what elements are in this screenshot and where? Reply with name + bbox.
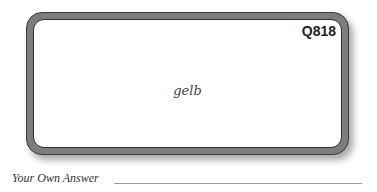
- card-term: gelb: [34, 83, 341, 98]
- flashcard-face: Q818 gelb: [33, 19, 342, 148]
- flashcard: Q818 gelb: [26, 12, 349, 155]
- answer-label: Your Own Answer: [12, 171, 99, 186]
- question-id: Q818: [302, 23, 336, 39]
- answer-input-line[interactable]: [114, 183, 362, 184]
